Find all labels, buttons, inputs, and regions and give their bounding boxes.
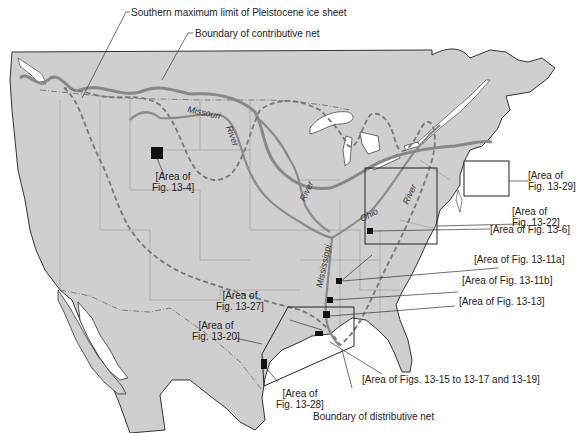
label-fig-13-6: [Area of Fig. 13-6]: [490, 224, 570, 235]
label-figs-13-15-to-13-19: [Area of Figs. 13-15 to 13-17 and 13-19]: [362, 374, 540, 385]
label-fig-13-11b: [Area of Fig. 13-11b]: [462, 275, 552, 286]
label-line: [Area of: [216, 290, 264, 301]
label-fig-13-20: [Area of Fig. 13-20]: [192, 320, 240, 342]
chesapeake-bay: [456, 190, 462, 212]
label-fig-13-13: [Area of Fig. 13-13]: [459, 296, 545, 307]
label-line: [Area of: [528, 170, 576, 181]
label-fig-13-29: [Area of Fig. 13-29]: [528, 170, 576, 192]
label-line: Fig. 13-20]: [192, 331, 240, 342]
label-line: Fig. 13-29]: [528, 181, 576, 192]
label-line: Fig. 13-27]: [216, 301, 264, 312]
label-line: Fig. 13-4]: [152, 182, 194, 193]
label-line: [Area of: [512, 206, 560, 217]
distributive-net-label: Boundary of distributive net: [313, 411, 434, 422]
label-fig-13-11a: [Area of Fig. 13-11a]: [474, 254, 564, 265]
label-fig-13-27: [Area of Fig. 13-27]: [216, 290, 264, 312]
ice-limit-label: Southern maximum limit of Pleistocene ic…: [131, 7, 347, 18]
label-fig-13-28: [Area of Fig. 13-28]: [276, 388, 324, 410]
label-line: [Area of: [276, 388, 324, 399]
label-fig-13-4: [Area of Fig. 13-4]: [152, 171, 194, 193]
label-line: [Area of: [152, 171, 194, 182]
label-line: [Area of: [192, 320, 240, 331]
label-line: Fig. 13-28]: [276, 399, 324, 410]
contributive-net-label: Boundary of contributive net: [195, 28, 320, 39]
box-fig-13-29: [464, 161, 509, 196]
